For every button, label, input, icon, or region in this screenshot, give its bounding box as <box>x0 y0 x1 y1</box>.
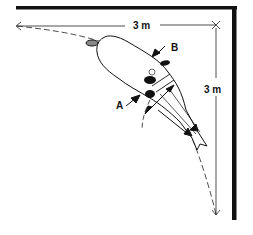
label-a: A <box>116 100 123 111</box>
vertical-dimension <box>212 28 220 215</box>
label-b: B <box>171 42 178 53</box>
horizontal-dimension-label: 3 m <box>133 20 150 31</box>
pool-walls <box>16 6 237 220</box>
inner-arc <box>142 100 150 130</box>
vertical-dimension-label: 3 m <box>204 84 221 95</box>
corner-turn-diagram: 3 m 3 m B A <box>0 0 253 235</box>
horizontal-dimension <box>16 21 220 30</box>
